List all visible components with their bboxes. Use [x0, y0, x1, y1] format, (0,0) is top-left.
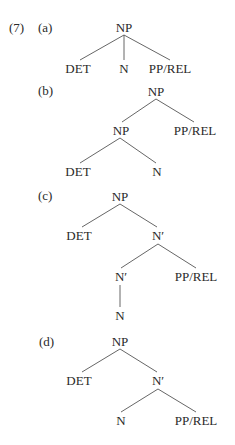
node-np-root: NP [116, 21, 133, 35]
node-n-bar: N′ [152, 374, 164, 388]
node-pp-rel: PP/REL [174, 124, 217, 138]
node-np-root: NP [112, 335, 129, 349]
node-np-inner: NP [113, 124, 130, 138]
node-np-root: NP [112, 190, 129, 204]
node-n-bar: N′ [152, 229, 164, 243]
node-det: DET [65, 62, 90, 76]
node-n: N [116, 414, 125, 428]
tree-label: (b) [38, 84, 53, 98]
node-det: DET [66, 374, 91, 388]
node-n-bar-inner: N′ [115, 270, 127, 284]
example-number: (7) [9, 21, 24, 35]
node-pp-rel: PP/REL [149, 62, 192, 76]
node-pp-rel: PP/REL [175, 270, 218, 284]
tree-label: (d) [39, 335, 54, 349]
node-np-root: NP [148, 85, 165, 99]
node-n: N [119, 62, 128, 76]
tree-label: (c) [38, 189, 52, 203]
node-det: DET [65, 165, 90, 179]
tree-label: (a) [38, 21, 52, 35]
node-det: DET [66, 229, 91, 243]
node-n: N [152, 165, 161, 179]
tree-edges [0, 0, 235, 445]
node-n: N [115, 309, 124, 323]
node-pp-rel: PP/REL [175, 414, 218, 428]
